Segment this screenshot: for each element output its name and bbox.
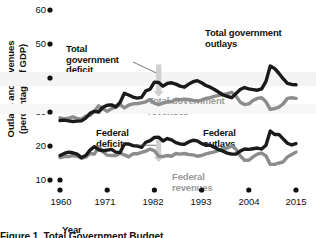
y-tick-dot: [47, 41, 52, 46]
x-tick-dot: [199, 187, 204, 192]
y-tick-dot: [47, 75, 52, 80]
x-tick-dot: [246, 187, 251, 192]
y-tick-dot: [47, 109, 52, 114]
chart-plot-area: [0, 0, 316, 238]
y-tick-dot: [47, 7, 52, 12]
x-tick-dot: [105, 187, 110, 192]
figure-container: Outlays and revenues (percentage of GDP)…: [0, 0, 316, 238]
x-tick-dot: [152, 187, 157, 192]
y-tick-dot: [47, 177, 52, 182]
x-tick-dot: [57, 187, 62, 192]
origin-tick-dot: [57, 177, 62, 182]
y-tick-dot: [47, 143, 52, 148]
x-tick-dot: [293, 187, 298, 192]
annotation-leader-line: [133, 62, 156, 73]
